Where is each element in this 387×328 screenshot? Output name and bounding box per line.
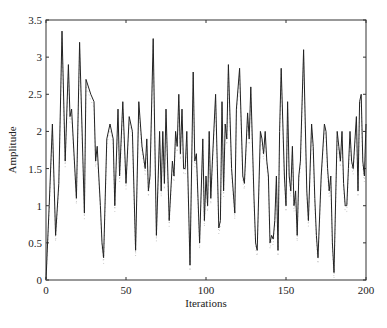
y-tick-label: 2.5 (28, 88, 42, 100)
dotted-trace (46, 37, 366, 280)
x-tick-label: 0 (43, 284, 49, 296)
x-tick-label: 150 (278, 284, 295, 296)
amplitude-line (46, 31, 366, 280)
x-tick-label: 100 (198, 284, 215, 296)
y-tick-label: 2 (37, 125, 43, 137)
axes-box (46, 20, 366, 280)
x-tick-label: 200 (358, 284, 375, 296)
y-tick-label: 3 (37, 51, 43, 63)
plot-area (46, 20, 366, 280)
data-series (46, 31, 366, 280)
y-tick-label: 0 (37, 274, 43, 286)
y-tick-label: 1 (37, 200, 43, 212)
y-tick-label: 1.5 (28, 163, 42, 175)
y-tick-label: 0.5 (28, 237, 42, 249)
y-tick-label: 3.5 (28, 14, 42, 26)
y-axis-label: Amplitude (6, 126, 18, 173)
x-axis-label: Iterations (185, 297, 227, 309)
x-tick-label: 50 (121, 284, 133, 296)
line-chart: 050100150200 00.511.522.533.5 Iterations… (0, 0, 387, 328)
